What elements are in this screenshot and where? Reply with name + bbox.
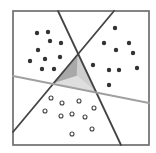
filled-point xyxy=(131,51,135,55)
filled-point xyxy=(43,57,47,61)
filled-point xyxy=(91,63,95,67)
hollow-point xyxy=(43,109,47,113)
geometric-diagram xyxy=(0,0,156,153)
filled-point xyxy=(114,48,118,52)
hollow-point xyxy=(83,115,87,119)
filled-point xyxy=(40,67,44,71)
filled-point xyxy=(58,55,62,59)
filled-point xyxy=(36,48,40,52)
filled-point xyxy=(113,26,117,30)
filled-point xyxy=(107,83,111,87)
filled-point xyxy=(107,68,111,72)
filled-point xyxy=(102,41,106,45)
filled-point xyxy=(135,66,139,70)
filled-point xyxy=(35,31,39,35)
hollow-point xyxy=(70,112,74,116)
filled-point xyxy=(52,67,56,71)
hollow-point xyxy=(59,114,63,118)
filled-point xyxy=(127,41,131,45)
filled-point xyxy=(28,59,32,63)
hollow-point xyxy=(60,101,64,105)
filled-point xyxy=(59,41,63,45)
hollow-point xyxy=(77,99,81,103)
hollow-point xyxy=(70,132,74,136)
hollow-point xyxy=(49,96,53,100)
hollow-point xyxy=(90,127,94,131)
filled-point xyxy=(48,39,52,43)
hollow-point xyxy=(92,106,96,110)
filled-point xyxy=(46,30,50,34)
filled-point xyxy=(117,68,121,72)
